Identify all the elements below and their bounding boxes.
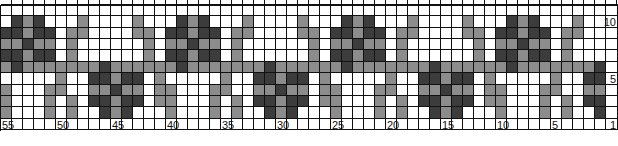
chart-cell — [254, 28, 265, 39]
chart-cell — [485, 5, 496, 16]
chart-cell — [111, 50, 122, 62]
chart-cell — [386, 73, 397, 85]
chart-cell — [507, 28, 518, 39]
chart-cell — [529, 96, 540, 107]
chart-cell — [529, 16, 540, 28]
chart-cell — [111, 5, 122, 16]
chart-cell — [496, 16, 507, 28]
chart-cell — [287, 73, 298, 85]
chart-cell — [254, 73, 265, 85]
chart-cell — [166, 50, 177, 62]
chart-cell — [122, 62, 133, 73]
chart-cell — [155, 28, 166, 39]
chart-cell — [1, 5, 12, 16]
chart-cell — [45, 62, 56, 73]
chart-cell — [298, 62, 309, 73]
chart-cell — [45, 50, 56, 62]
chart-cell — [485, 107, 496, 119]
chart-cell — [551, 85, 562, 96]
chart-cell — [562, 85, 573, 96]
chart-cell — [595, 50, 606, 62]
chart-cell — [287, 16, 298, 28]
chart-cell — [320, 28, 331, 39]
chart-cell — [573, 73, 584, 85]
chart-cell — [45, 39, 56, 50]
chart-cell — [265, 50, 276, 62]
chart-cell — [177, 28, 188, 39]
chart-cell — [265, 39, 276, 50]
chart-cell — [573, 39, 584, 50]
chart-cell — [408, 5, 419, 16]
chart-cell — [562, 16, 573, 28]
chart-cell — [78, 39, 89, 50]
chart-cell — [1, 73, 12, 85]
chart-cell — [45, 5, 56, 16]
chart-cell — [12, 39, 23, 50]
chart-cell — [122, 50, 133, 62]
chart-cell — [133, 96, 144, 107]
chart-cell — [188, 85, 199, 96]
chart-cell — [430, 16, 441, 28]
chart-cell — [551, 107, 562, 119]
chart-cell — [177, 85, 188, 96]
chart-cell — [375, 5, 386, 16]
chart-cell — [386, 107, 397, 119]
chart-cell — [232, 16, 243, 28]
chart-cell — [100, 119, 111, 130]
chart-cell — [177, 107, 188, 119]
chart-cell — [243, 85, 254, 96]
chart-cell — [474, 5, 485, 16]
chart-cell — [23, 62, 34, 73]
chart-cell — [573, 62, 584, 73]
chart-cell — [430, 73, 441, 85]
chart-cell — [419, 5, 430, 16]
chart-cell — [309, 16, 320, 28]
chart-cell — [199, 119, 210, 130]
column-number-label: 35 — [222, 120, 234, 131]
chart-cell — [144, 16, 155, 28]
chart-cell — [463, 62, 474, 73]
chart-cell — [320, 62, 331, 73]
chart-cell — [298, 39, 309, 50]
chart-cell — [243, 50, 254, 62]
chart-cell — [353, 119, 364, 130]
column-number-label: 20 — [387, 120, 399, 131]
chart-cell — [518, 96, 529, 107]
chart-cell — [67, 96, 78, 107]
chart-cell — [496, 96, 507, 107]
chart-cell — [551, 96, 562, 107]
chart-cell — [452, 62, 463, 73]
chart-cell — [67, 62, 78, 73]
chart-cell — [276, 50, 287, 62]
chart-cell — [595, 73, 606, 85]
chart-cell — [419, 62, 430, 73]
chart-cell — [320, 73, 331, 85]
chart-cell — [265, 73, 276, 85]
chart-cell — [155, 5, 166, 16]
chart-cell — [1, 85, 12, 96]
chart-cell — [529, 39, 540, 50]
chart-cell — [287, 39, 298, 50]
chart-cell — [342, 73, 353, 85]
chart-cell — [23, 5, 34, 16]
chart-cell — [518, 85, 529, 96]
chart-cell — [100, 50, 111, 62]
chart-cell — [452, 96, 463, 107]
chart-cell — [562, 96, 573, 107]
chart-cell — [496, 39, 507, 50]
chart-cell — [122, 28, 133, 39]
chart-cell — [529, 62, 540, 73]
chart-cell — [265, 28, 276, 39]
chart-cell — [430, 5, 441, 16]
chart-cell — [89, 119, 100, 130]
chart-cell — [111, 85, 122, 96]
chart-cell — [496, 85, 507, 96]
chart-cell — [386, 50, 397, 62]
chart-cell — [155, 50, 166, 62]
chart-cell — [331, 39, 342, 50]
chart-cell — [408, 16, 419, 28]
chart-cell — [78, 28, 89, 39]
chart-cell — [155, 39, 166, 50]
chart-cell — [595, 62, 606, 73]
chart-cell — [199, 16, 210, 28]
